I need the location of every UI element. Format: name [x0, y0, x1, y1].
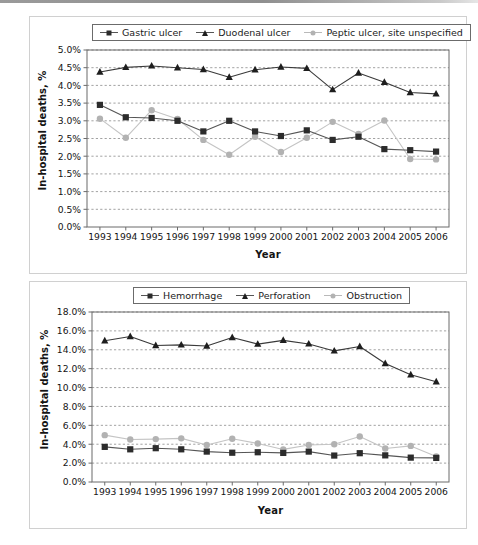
data-point-circle — [200, 137, 206, 143]
x-tick-label: 2005 — [399, 231, 423, 242]
series-line — [105, 337, 437, 382]
data-point-square — [278, 133, 284, 139]
data-point-square — [357, 450, 363, 456]
legend-marker-triangle-icon — [202, 30, 208, 36]
legend-swatch-triangle — [236, 295, 254, 296]
data-point-circle — [255, 440, 261, 446]
data-point-circle — [306, 442, 312, 448]
legend-ulcer-site: Gastric ulcerDuodenal ulcerPeptic ulcer,… — [92, 24, 471, 41]
chart-panel-ulcer-complication: HemorrhagePerforationObstruction 0.0%2.0… — [29, 281, 467, 529]
data-point-circle — [229, 436, 235, 442]
y-tick-label: 6.0% — [63, 420, 87, 431]
data-point-circle — [304, 135, 310, 141]
series-perforation — [101, 333, 440, 385]
x-tick-label: 1998 — [221, 486, 245, 497]
x-tick-label: 1993 — [88, 231, 112, 242]
data-point-circle — [331, 441, 337, 447]
y-tick-label: 2.5% — [58, 133, 82, 144]
legend-entry-peptic-ulcer-site-unspecified: Peptic ulcer, site unspecified — [304, 28, 462, 38]
series-peptic-ulcer-site-unspecified — [97, 107, 440, 163]
series-duodenal-ulcer — [96, 62, 439, 97]
data-point-square — [280, 450, 286, 456]
x-tick-label: 1997 — [195, 486, 219, 497]
data-point-circle — [204, 442, 210, 448]
data-point-triangle — [280, 336, 287, 343]
data-point-circle — [102, 432, 108, 438]
legend-swatch-circle — [324, 295, 342, 296]
data-point-circle — [97, 115, 103, 121]
data-point-triangle — [127, 333, 134, 340]
legend-marker-circle-icon — [331, 294, 336, 299]
data-point-triangle — [148, 62, 155, 69]
data-point-circle — [329, 119, 335, 125]
legend-label: Hemorrhage — [163, 291, 222, 301]
x-tick-label: 1998 — [218, 231, 242, 242]
data-point-square — [304, 127, 310, 133]
legend-entry-gastric-ulcer: Gastric ulcer — [100, 28, 182, 38]
legend-marker-square-icon — [148, 294, 153, 299]
y-tick-label: 3.0% — [58, 115, 82, 126]
data-point-circle — [153, 436, 159, 442]
x-tick-label: 2002 — [323, 486, 346, 497]
data-point-circle — [408, 443, 414, 449]
data-point-triangle — [355, 69, 362, 76]
x-tick-label: 1995 — [140, 231, 164, 242]
legend-swatch-square — [100, 32, 118, 33]
x-tick-label: 2001 — [295, 231, 318, 242]
data-point-square — [153, 445, 159, 451]
x-tick-label: 1997 — [192, 231, 216, 242]
legend-label: Duodenal ulcer — [218, 28, 290, 38]
y-tick-label: 1.0% — [58, 186, 82, 197]
y-tick-label: 5.0% — [58, 44, 82, 55]
legend-entry-obstruction: Obstruction — [324, 291, 402, 301]
data-point-square — [255, 449, 261, 455]
x-tick-label: 2000 — [269, 231, 293, 242]
legend-label: Gastric ulcer — [122, 28, 182, 38]
x-tick-label: 2003 — [347, 231, 371, 242]
data-point-square — [102, 444, 108, 450]
x-tick-label: 2006 — [424, 231, 448, 242]
x-tick-label: 1993 — [93, 486, 117, 497]
x-tick-label: 1996 — [166, 231, 190, 242]
y-tick-label: 12.0% — [57, 363, 86, 374]
data-point-square — [226, 118, 232, 124]
y-tick-label: 10.0% — [57, 382, 86, 393]
y-tick-label: 2.0% — [58, 151, 82, 162]
data-point-square — [407, 147, 413, 153]
x-tick-label: 1994 — [114, 231, 138, 242]
legend-marker-circle-icon — [311, 31, 316, 36]
series-line — [100, 66, 436, 94]
data-point-square — [174, 118, 180, 124]
y-tick-label: 18.0% — [57, 306, 86, 317]
data-point-circle — [382, 445, 388, 451]
data-point-square — [252, 128, 258, 134]
legend-swatch-circle — [304, 32, 322, 33]
data-point-triangle — [382, 360, 389, 367]
data-point-circle — [433, 156, 439, 162]
x-tick-label: 1999 — [243, 231, 267, 242]
data-point-circle — [178, 435, 184, 441]
ulcer-complication-plot: 0.0%2.0%4.0%6.0%8.0%10.0%12.0%14.0%16.0%… — [30, 282, 466, 528]
x-tick-label: 2006 — [425, 486, 449, 497]
data-point-square — [123, 114, 129, 120]
data-point-square — [331, 452, 337, 458]
figure-container: Gastric ulcerDuodenal ulcerPeptic ulcer,… — [0, 0, 478, 545]
y-tick-label: 0.0% — [63, 476, 87, 487]
x-tick-label: 2000 — [272, 486, 296, 497]
data-point-square — [127, 446, 133, 452]
data-point-square — [149, 115, 155, 121]
data-point-square — [204, 448, 210, 454]
data-point-square — [381, 146, 387, 152]
y-tick-label: 0.5% — [58, 204, 82, 215]
data-point-square — [382, 452, 388, 458]
x-tick-label: 1994 — [119, 486, 143, 497]
x-tick-label: 2003 — [348, 486, 372, 497]
legend-entry-duodenal-ulcer: Duodenal ulcer — [196, 28, 290, 38]
data-point-square — [330, 137, 336, 143]
data-point-circle — [357, 433, 363, 439]
x-tick-label: 1996 — [170, 486, 194, 497]
y-tick-label: 0.0% — [58, 221, 82, 232]
data-point-circle — [148, 107, 154, 113]
data-point-circle — [278, 149, 284, 155]
data-point-triangle — [329, 86, 336, 93]
